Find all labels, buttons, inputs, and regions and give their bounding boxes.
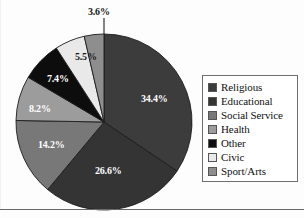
legend-item-social-service[interactable]: Social Service — [208, 108, 293, 122]
legend-label-social-service: Social Service — [221, 109, 283, 122]
legend-swatch-health — [208, 125, 217, 134]
pie-slices-group — [16, 34, 192, 210]
legend-item-educational[interactable]: Educational — [208, 94, 293, 108]
pie-chart-area: 34.4% 26.6% 14.2% 8.2% 7.4% 5.5% 3.6% — [0, 0, 200, 212]
legend-swatch-sport-arts — [208, 167, 217, 176]
legend-item-other[interactable]: Other — [208, 136, 293, 150]
legend-label-health: Health — [221, 123, 250, 136]
figure-container: 34.4% 26.6% 14.2% 8.2% 7.4% 5.5% 3.6% Re… — [0, 0, 304, 218]
legend-swatch-other — [208, 139, 217, 148]
legend-swatch-social-service — [208, 111, 217, 120]
pie-chart-svg — [0, 0, 200, 212]
legend-label-religious: Religious — [221, 81, 262, 94]
legend-box: Religious Educational Social Service Hea… — [202, 75, 298, 182]
legend-label-educational: Educational — [221, 95, 272, 108]
legend-label-sport-arts: Sport/Arts — [221, 165, 266, 178]
figure-bottom-rule — [0, 209, 304, 210]
legend-label-other: Other — [221, 137, 246, 150]
legend-label-civic: Civic — [221, 151, 244, 164]
legend-item-health[interactable]: Health — [208, 122, 293, 136]
legend-item-religious[interactable]: Religious — [208, 80, 293, 94]
legend-swatch-civic — [208, 153, 217, 162]
legend-item-sport-arts[interactable]: Sport/Arts — [208, 164, 293, 178]
legend-item-civic[interactable]: Civic — [208, 150, 293, 164]
legend-swatch-educational — [208, 97, 217, 106]
legend-swatch-religious — [208, 83, 217, 92]
